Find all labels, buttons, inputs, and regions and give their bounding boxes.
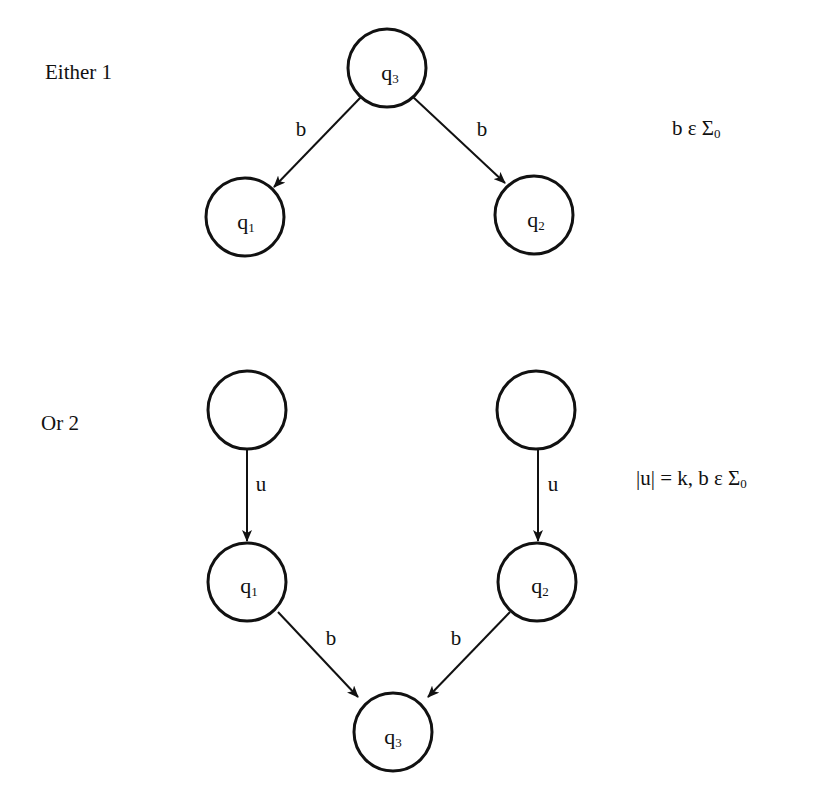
- node-label-q1-top: q1: [237, 211, 255, 234]
- edge-label-b-left-bottom: b: [326, 628, 337, 649]
- condition-text: b ε Σ: [672, 116, 714, 140]
- case-1-condition: b ε Σ0: [672, 118, 721, 140]
- condition-subscript: 0: [740, 476, 747, 491]
- node-label-q1-bottom: q1: [240, 575, 258, 598]
- edge-q2-to-q3: [428, 612, 510, 697]
- case-2-heading: Or 2: [41, 413, 79, 434]
- edge-label-u-right: u: [548, 474, 559, 495]
- node-label-q2-bottom: q2: [531, 575, 549, 598]
- state-node-blank-left: [208, 371, 286, 449]
- condition-text: |u| = k, b ε Σ: [636, 466, 740, 490]
- state-node-blank-right: [497, 371, 575, 449]
- node-label-q2-top: q2: [527, 209, 545, 232]
- condition-subscript: 0: [714, 126, 721, 141]
- edge-label-b-left-top: b: [296, 119, 307, 140]
- edge-q3-to-q1: [274, 97, 361, 187]
- case-2-condition: |u| = k, b ε Σ0: [636, 468, 747, 490]
- edge-label-b-right-top: b: [477, 119, 488, 140]
- edge-q1-to-q3: [278, 612, 358, 697]
- node-label-q3-top: q3: [381, 62, 399, 85]
- edge-label-b-right-bottom: b: [451, 628, 462, 649]
- edge-q3-to-q2: [413, 97, 505, 183]
- node-label-q3-bottom: q3: [384, 726, 402, 749]
- case-1-heading: Either 1: [45, 62, 112, 83]
- edge-label-u-left: u: [256, 474, 267, 495]
